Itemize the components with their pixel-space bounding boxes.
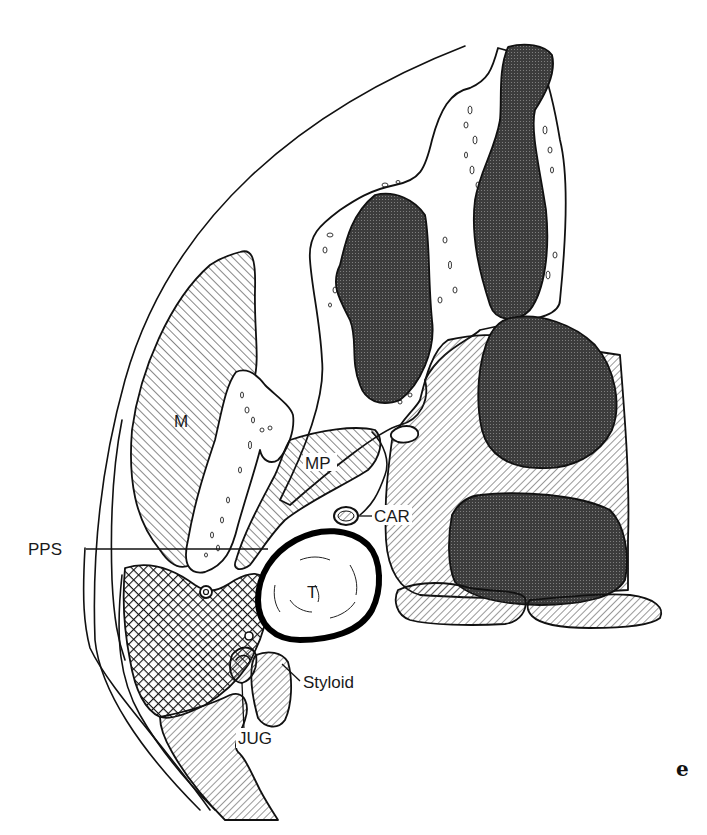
small-vessel [245,632,253,640]
anatomical-diagram: M MP PPS CAR T Styloid JUG e [0,0,707,835]
label-pps: PPS [28,540,62,559]
label-jugular: JUG [238,729,272,748]
label-tumor: T [307,583,317,602]
label-medial-pterygoid: MP [305,454,331,473]
nasopharynx-upper [478,317,616,469]
panel-label: e [676,757,689,781]
label-masseter: M [174,412,188,431]
label-styloid: Styloid [303,673,354,692]
label-carotid: CAR [374,507,410,526]
skin-inner-line [111,420,125,660]
tumor-mass [258,531,379,640]
prevertebral-lobe-right [528,594,662,628]
parotid-gland [124,565,269,718]
retromandibular-vein [200,586,212,598]
styloid-muscle-group [251,652,291,726]
pterygoid-lumen [391,426,418,443]
